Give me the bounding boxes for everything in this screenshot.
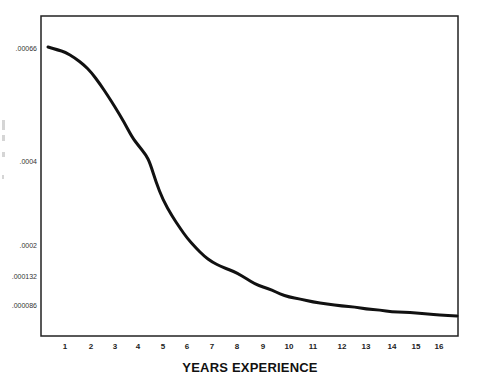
x-tick-label: 14 — [382, 342, 402, 351]
x-tick-label: 8 — [227, 342, 247, 351]
scan-artifact — [2, 135, 5, 141]
x-tick-label: 11 — [303, 342, 323, 351]
x-tick-label: 9 — [253, 342, 273, 351]
plot-area — [0, 0, 484, 390]
x-axis-title: YEARS EXPERIENCE — [160, 360, 340, 375]
y-tick-label: .00066 — [1, 45, 37, 52]
y-tick-label: .000132 — [1, 273, 37, 280]
x-tick-label: 12 — [332, 342, 352, 351]
x-tick-label: 5 — [153, 342, 173, 351]
scan-artifact — [2, 175, 4, 179]
x-tick-label: 15 — [406, 342, 426, 351]
x-tick-label: 3 — [105, 342, 125, 351]
x-tick-label: 1 — [55, 342, 75, 351]
x-tick-label: 13 — [356, 342, 376, 351]
scan-artifact — [2, 120, 5, 130]
x-tick-label: 4 — [128, 342, 148, 351]
x-tick-label: 7 — [202, 342, 222, 351]
y-tick-label: .0004 — [1, 158, 37, 165]
y-tick-label: .0002 — [1, 242, 37, 249]
x-tick-label: 10 — [279, 342, 299, 351]
x-tick-label: 2 — [81, 342, 101, 351]
scan-artifact — [2, 152, 5, 157]
data-line — [48, 47, 457, 316]
y-tick-label: .000086 — [1, 302, 37, 309]
chart: .00066.0004.0002.000132.000086 123456789… — [0, 0, 484, 390]
x-tick-label: 16 — [429, 342, 449, 351]
chart-frame — [41, 16, 458, 336]
x-tick-label: 6 — [177, 342, 197, 351]
